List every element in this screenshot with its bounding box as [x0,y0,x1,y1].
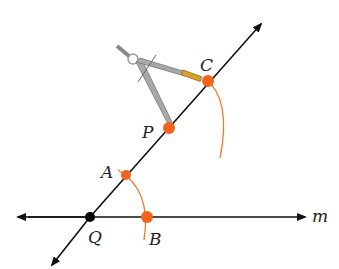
point-P [163,122,175,134]
label-P: P [141,122,154,142]
point-Q [85,212,95,222]
point-A [121,170,131,180]
point-C [202,75,214,87]
transversal-line [90,24,261,217]
transversal-line-lower [52,217,90,265]
arc-C [205,78,224,158]
label-Q: Q [88,227,102,247]
compass-icon [117,46,202,124]
point-B [141,211,153,223]
label-C: C [200,55,213,75]
label-A: A [99,162,113,182]
geometry-diagram: Q B A P C m [0,0,339,269]
label-B: B [148,229,162,249]
label-m: m [312,206,328,226]
